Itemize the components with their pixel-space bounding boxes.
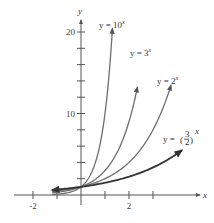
x-axis: x — [14, 190, 207, 200]
label-2x: y = 2x — [157, 75, 179, 86]
svg-text:20: 20 — [66, 27, 76, 37]
y-axis-label: y — [77, 6, 82, 16]
label-3x: y = 3x — [130, 47, 152, 58]
svg-text:10: 10 — [66, 109, 76, 119]
svg-text:y =: y = — [163, 134, 175, 144]
curve-y-2-x — [52, 85, 171, 191]
y-axis: y — [77, 6, 82, 205]
x-ticks: -22 — [29, 191, 153, 211]
label-10x: y = 10x — [99, 19, 125, 30]
svg-text:-2: -2 — [29, 201, 37, 211]
svg-text:(: ( — [180, 135, 183, 145]
exponential-chart: x y -22 1020 y = 10x y = 3x y = 2x y = (… — [0, 0, 214, 223]
curve-y-10-x — [52, 29, 112, 195]
x-axis-label: x — [202, 190, 207, 200]
label-1.5x: y = ( 3 2 ) x — [163, 126, 199, 147]
svg-text:): ) — [190, 135, 193, 145]
curve-y-3-2-x — [52, 150, 182, 190]
curve-y-3-x — [52, 87, 137, 193]
svg-text:2: 2 — [185, 137, 190, 147]
svg-text:x: x — [194, 126, 199, 136]
svg-text:2: 2 — [127, 201, 132, 211]
y-ticks: 1020 — [66, 27, 85, 179]
